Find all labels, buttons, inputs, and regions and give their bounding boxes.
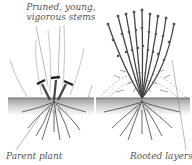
pruned-label-line2: vigorous stems bbox=[26, 12, 96, 22]
pruned-stems-label: Pruned, young, vigorous stems bbox=[26, 2, 96, 22]
parent-plant-label: Parent plant bbox=[6, 151, 62, 161]
parent-plant-figure bbox=[8, 25, 94, 150]
illustration bbox=[0, 0, 192, 165]
stooling-diagram: Pruned, young, vigorous stems Parent pla… bbox=[0, 0, 192, 165]
soil-left bbox=[8, 98, 94, 116]
rooted-layers-figure bbox=[96, 9, 190, 151]
pruned-label-line1: Pruned, young, bbox=[26, 2, 96, 12]
rooted-layers-label: Rooted layers bbox=[130, 151, 192, 161]
soil-right bbox=[96, 98, 190, 116]
